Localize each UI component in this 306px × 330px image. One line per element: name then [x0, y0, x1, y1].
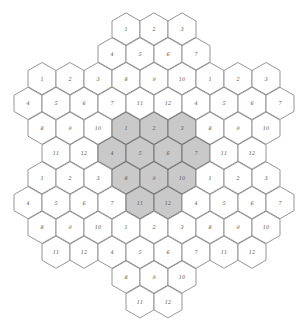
- hex-label: 1: [40, 175, 43, 181]
- hex-label: 12: [81, 150, 87, 156]
- hex-label: 10: [95, 224, 102, 230]
- hex-label: 11: [137, 100, 143, 106]
- hex-label: 2: [235, 175, 239, 181]
- hex-label: 12: [165, 299, 171, 305]
- hex-label: 2: [235, 76, 239, 82]
- hex-label: 8: [208, 125, 211, 131]
- hex-grid-diagram: 1234567123891012345671112456789101238910…: [0, 0, 306, 330]
- hex-label: 11: [137, 299, 143, 305]
- hex-label: 12: [249, 249, 255, 255]
- hex-label: 4: [193, 200, 197, 206]
- hex-label: 2: [67, 76, 71, 82]
- hex-label: 2: [151, 224, 155, 230]
- hex-label: 1: [40, 76, 43, 82]
- hex-label: 5: [222, 100, 225, 106]
- hex-label: 3: [180, 125, 183, 131]
- hex-label: 5: [138, 51, 141, 57]
- hex-label: 8: [208, 224, 211, 230]
- hex-label: 4: [109, 249, 113, 255]
- hex-label: 4: [109, 51, 113, 57]
- hex-label: 5: [222, 200, 225, 206]
- hex-label: 12: [165, 100, 171, 106]
- hex-label: 4: [193, 100, 197, 106]
- hex-label: 3: [264, 175, 267, 181]
- hex-label: 1: [208, 175, 211, 181]
- hex-label: 11: [221, 150, 227, 156]
- hex-label: 8: [40, 224, 43, 230]
- hex-label: 10: [179, 175, 186, 181]
- hex-label: 8: [124, 175, 127, 181]
- hex-label: 5: [138, 150, 141, 156]
- hex-label: 1: [124, 26, 127, 32]
- hex-label: 2: [67, 175, 71, 181]
- hex-label: 3: [264, 76, 267, 82]
- hex-label: 12: [165, 200, 171, 206]
- hex-label: 2: [151, 125, 155, 131]
- hex-label: 1: [124, 224, 127, 230]
- hex-label: 3: [96, 76, 99, 82]
- hex-label: 8: [124, 76, 127, 82]
- hex-label: 4: [109, 150, 113, 156]
- hex-label: 11: [137, 200, 143, 206]
- hex-label: 11: [221, 249, 227, 255]
- hex-label: 3: [180, 224, 183, 230]
- hex-label: 1: [208, 76, 211, 82]
- hex-label: 11: [53, 249, 59, 255]
- hex-label: 12: [249, 150, 255, 156]
- hex-label: 3: [180, 26, 183, 32]
- hex-label: 10: [179, 76, 186, 82]
- hex-label: 5: [54, 200, 57, 206]
- hex-label: 8: [124, 274, 127, 280]
- hex-label: 10: [95, 125, 102, 131]
- hex-label: 1: [124, 125, 127, 131]
- hex-label: 5: [138, 249, 141, 255]
- hex-label: 10: [263, 125, 270, 131]
- hex-label: 12: [81, 249, 87, 255]
- hex-label: 8: [40, 125, 43, 131]
- hex-label: 10: [263, 224, 270, 230]
- hex-label: 4: [25, 100, 29, 106]
- hex-label: 2: [151, 26, 155, 32]
- hex-label: 11: [53, 150, 59, 156]
- hex-label: 3: [96, 175, 99, 181]
- hex-label: 10: [179, 274, 186, 280]
- hex-label: 5: [54, 100, 57, 106]
- hex-cells: 1234567123891012345671112456789101238910…: [14, 13, 294, 318]
- hex-label: 4: [25, 200, 29, 206]
